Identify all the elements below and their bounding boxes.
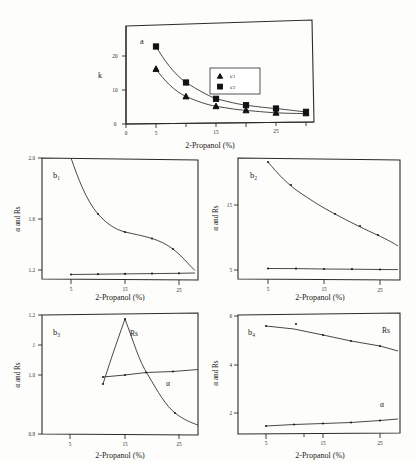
panel-b2-series-rs-curve xyxy=(268,162,398,246)
panel-b4-series-alpha-markers xyxy=(265,419,381,427)
panel-b4-xtick-label-15: 15 xyxy=(320,440,326,446)
panel-a-x-axis xyxy=(126,122,314,124)
panel-b4-plot: 6 4 2 5 15 25 b₄ α and Rs 2-Propanol (%)… xyxy=(208,303,408,459)
panel-a-ytick-label-20: 20 xyxy=(112,53,118,59)
panel-b1-x-axis-title: 2-Propanol (%) xyxy=(95,293,145,302)
panel-b3-series-rs-markers xyxy=(102,318,176,414)
panel-b3: 1.2 1 1.0 0.8 5 15 25 b₃ α and Rs 2-Prop… xyxy=(8,303,206,459)
panel-b1-ytick-label-2: 2.0 xyxy=(29,155,36,161)
panel-b3-ytick-label-10: 1.0 xyxy=(29,372,36,378)
panel-b1-label: b₁ xyxy=(53,171,60,180)
panel-b4-series-alpha-curve xyxy=(266,419,398,426)
panel-b4-annotation-rs: Rs xyxy=(382,326,390,335)
panel-b3-frame xyxy=(42,313,198,435)
panel-b3-ytick-label-12: 1.2 xyxy=(29,312,36,318)
panel-b3-annotation-alpha: α xyxy=(166,379,170,388)
panel-b4-y-axis-title: α and Rs xyxy=(212,360,220,386)
panel-b1-plot: 2.0 1.6 1.2 5 15 25 b₁ α and Rs 2-Propan… xyxy=(8,148,206,300)
panel-a-y-axis-title: k xyxy=(98,71,102,80)
panel-b1-ytick-label-16: 1.6 xyxy=(29,216,36,222)
panel-b1-xtick-label-15: 15 xyxy=(122,286,128,292)
panel-b1-ytick-label-12: 1.2 xyxy=(29,267,36,273)
panel-b3-series-alpha-curve xyxy=(103,370,198,378)
panel-b1-xtick-label-5: 5 xyxy=(70,286,73,292)
panel-b2-plot: 15 5 5 15 25 b₂ α and Rs 2-Propanol (%) xyxy=(208,148,408,300)
panel-b1-xtick-label-25: 25 xyxy=(176,287,182,293)
panel-b4-label: b₄ xyxy=(248,328,255,337)
panel-b1-series-rs-markers xyxy=(97,213,174,250)
panel-b1-frame xyxy=(42,158,198,280)
panel-b3-y-axis-title: α and Rs xyxy=(14,362,22,388)
panel-b2-x-axis-title: 2-Propanol (%) xyxy=(295,293,345,302)
panel-b4-ytick-label-2: 2 xyxy=(229,410,232,416)
panel-b2-ytick-label-5: 5 xyxy=(229,267,232,273)
panel-b2-xtick-label-15: 15 xyxy=(321,286,327,292)
panel-b2: 15 5 5 15 25 b₂ α and Rs 2-Propanol (%) xyxy=(208,148,408,300)
panel-b2-ytick-label-15: 15 xyxy=(227,202,233,208)
panel-b1-y-axis-title: α and Rs xyxy=(14,206,22,232)
panel-b4-xtick-label-25: 25 xyxy=(377,440,383,446)
panel-b4: 6 4 2 5 15 25 b₄ α and Rs 2-Propanol (%)… xyxy=(208,303,408,459)
panel-b3-xtick-label-5: 5 xyxy=(69,441,72,447)
panel-b2-series-alpha-curve xyxy=(268,269,398,270)
panel-b4-frame xyxy=(238,313,400,434)
panel-b3-xtick-label-25: 25 xyxy=(176,441,182,447)
panel-a-xtick-label-25: 25 xyxy=(273,128,279,134)
figure-container: 0 10 20 0 5 15 25 a k xyxy=(0,0,416,462)
panel-a-legend: k'1 k'2 xyxy=(210,68,260,94)
panel-a-ytick-label-0: 0 xyxy=(114,121,117,127)
panel-b2-label: b₂ xyxy=(250,171,257,180)
panel-a-xtick-label-5: 5 xyxy=(155,130,158,136)
panel-b4-ytick-label-4: 4 xyxy=(229,362,232,368)
panel-b3-xtick-label-15: 15 xyxy=(122,441,128,447)
panel-a-label: a xyxy=(140,37,144,46)
panel-a-xtick-label-15: 15 xyxy=(213,129,219,135)
panel-b4-annotation-alpha: α xyxy=(380,400,384,409)
panel-b3-ytick-label-extra: 1 xyxy=(32,342,35,348)
panel-a: 0 10 20 0 5 15 25 a k xyxy=(84,12,314,140)
panel-b4-ytick-label-6: 6 xyxy=(229,313,232,319)
panel-b2-xtick-label-25: 25 xyxy=(377,287,383,293)
panel-a-legend-label-k1: k'1 xyxy=(230,74,236,79)
panel-b1-series-alpha-curve xyxy=(71,273,195,275)
panel-b1: 2.0 1.6 1.2 5 15 25 b₁ α and Rs 2-Propan… xyxy=(8,148,206,300)
panel-b4-series-rs-curve xyxy=(266,326,398,351)
panel-b1-series-rs-curve xyxy=(71,158,195,271)
panel-b2-series-rs-markers xyxy=(267,161,379,236)
panel-b3-label: b₃ xyxy=(53,328,60,337)
panel-b4-xtick-label-5: 5 xyxy=(265,440,268,446)
panel-b2-frame xyxy=(238,158,400,280)
panel-b3-plot: 1.2 1 1.0 0.8 5 15 25 b₃ α and Rs 2-Prop… xyxy=(8,303,206,459)
panel-b3-x-axis-title: 2-Propanol (%) xyxy=(95,451,145,460)
panel-a-plot: 0 10 20 0 5 15 25 a k xyxy=(84,12,314,140)
panel-a-ytick-label-10: 10 xyxy=(112,87,118,93)
panel-b2-y-axis-title: α and Rs xyxy=(212,205,220,231)
panel-b2-xtick-label-5: 5 xyxy=(267,286,270,292)
panel-a-legend-label-k2: k'2 xyxy=(230,85,236,90)
panel-b3-ytick-label-08: 0.8 xyxy=(29,431,36,437)
panel-a-xtick-label-0: 0 xyxy=(125,130,128,136)
panel-b4-x-axis-title: 2-Propanol (%) xyxy=(295,451,345,460)
